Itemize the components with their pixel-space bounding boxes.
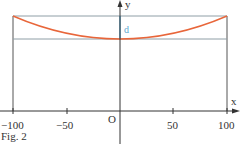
sag-label: d — [124, 24, 129, 35]
diagram-canvas: y x O d −100 −50 50 100 — [0, 0, 240, 144]
tick-label-100: 100 — [218, 119, 235, 131]
figure-caption: Fig. 2 — [1, 130, 27, 142]
tick-label-50: 50 — [167, 119, 179, 131]
y-axis-label: y — [125, 0, 131, 10]
origin-label: O — [108, 113, 116, 125]
figure-2: y x O d −100 −50 50 100 Fig. 2 — [0, 0, 240, 144]
y-axis-arrow-icon — [118, 0, 123, 7]
tick-label-neg50: −50 — [56, 119, 74, 131]
x-axis-label: x — [231, 95, 237, 107]
x-axis-arrow-icon — [232, 109, 240, 114]
